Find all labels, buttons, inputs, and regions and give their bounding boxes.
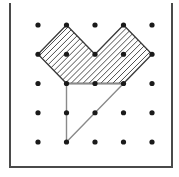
hatch-line: [19, 0, 179, 177]
hatch-line: [25, 0, 179, 177]
hatch-line: [96, 0, 179, 177]
hatch-line: [0, 0, 148, 177]
grid-dot-r4-c0: [35, 139, 40, 144]
hatch-line: [0, 0, 36, 177]
grid-dot-r0-c2: [92, 22, 97, 27]
grid-dot-r0-c3: [121, 22, 126, 27]
grid-dot-r4-c4: [149, 139, 154, 144]
hatch-line: [168, 0, 179, 177]
grid-dots: [35, 22, 154, 144]
grid-dot-r0-c0: [35, 22, 40, 27]
hatch-line: [0, 0, 42, 177]
hatch-line: [120, 0, 179, 177]
grid-dot-r1-c1: [64, 52, 69, 57]
grid-dot-r3-c1: [64, 110, 69, 115]
hatch-line: [37, 0, 179, 177]
hatch-line: [0, 0, 59, 177]
geoboard-figure: [0, 0, 179, 177]
hatch-line: [0, 0, 6, 177]
grid-dot-r3-c3: [121, 110, 126, 115]
grid-dot-r2-c3: [121, 81, 126, 86]
border-frame: [10, 4, 172, 167]
hatch-line: [0, 0, 83, 177]
grid-dot-r2-c2: [92, 81, 97, 86]
hatch-line: [0, 0, 125, 177]
grid-dot-r4-c1: [64, 139, 69, 144]
grid-dot-r3-c4: [149, 110, 154, 115]
grid-dot-r3-c2: [92, 110, 97, 115]
hatch-line: [0, 0, 166, 177]
hatch-line: [0, 0, 172, 177]
grid-dot-r2-c1: [64, 81, 69, 86]
hatch-line: [84, 0, 179, 177]
grid-dot-r3-c0: [35, 110, 40, 115]
hatch-line: [144, 0, 179, 177]
hatch-line: [173, 0, 179, 177]
hatch-line: [0, 0, 18, 177]
grid-dot-r0-c4: [149, 22, 154, 27]
hatch-line: [43, 0, 179, 177]
hatch-line: [0, 0, 24, 177]
hatch-line: [0, 0, 30, 177]
grid-dot-r1-c4: [149, 52, 154, 57]
hatch-line: [156, 0, 179, 177]
grid-dot-r1-c0: [35, 52, 40, 57]
hatch-line: [90, 0, 179, 177]
hatch-line: [0, 0, 53, 177]
grid-dot-r2-c0: [35, 81, 40, 86]
hatch-line: [61, 0, 179, 177]
hatch-line: [0, 0, 160, 177]
hatch-line: [0, 0, 119, 177]
hatch-line: [0, 0, 89, 177]
hatch-line: [0, 0, 95, 177]
grid-dot-r4-c2: [92, 139, 97, 144]
hatch-line: [102, 0, 179, 177]
grid-dot-r1-c3: [121, 52, 126, 57]
hatch-line: [0, 0, 48, 177]
frame-open-top-path: [10, 4, 172, 167]
grid-dot-r4-c3: [121, 139, 126, 144]
hatch-line: [55, 0, 179, 177]
hatch-line: [0, 0, 107, 177]
hatch-line: [0, 0, 154, 177]
hatch-line: [162, 0, 179, 177]
grid-dot-r0-c1: [64, 22, 69, 27]
figure-container: [0, 0, 179, 177]
grid-dot-r1-c2: [92, 52, 97, 57]
grid-dot-r2-c4: [149, 81, 154, 86]
hatch-line: [31, 0, 179, 177]
hatch-line: [0, 0, 101, 177]
